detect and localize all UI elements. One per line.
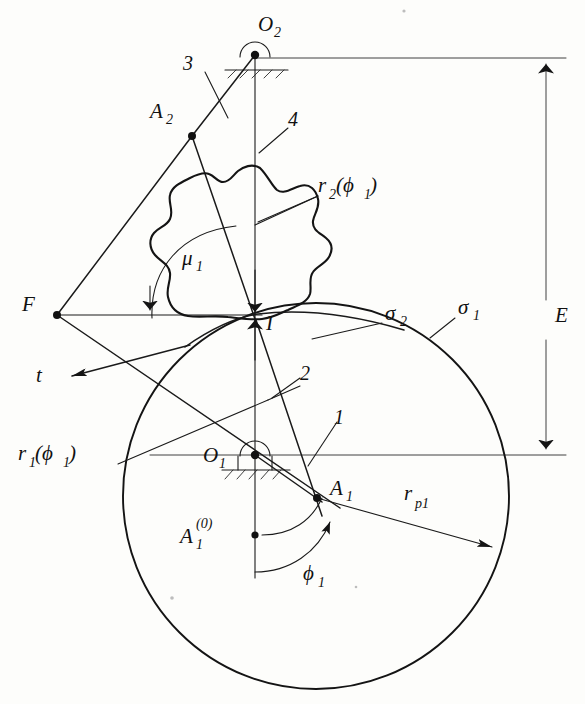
- cam-profile-curve: [150, 166, 331, 320]
- svg-text:2: 2: [329, 187, 336, 202]
- svg-text:1: 1: [196, 259, 203, 274]
- label-A2: A 2: [148, 99, 173, 127]
- O1-hatch: [237, 470, 245, 479]
- joint-dot-F: [53, 311, 61, 319]
- O1-hatch: [273, 470, 281, 479]
- link-2-line: [256, 320, 322, 516]
- svg-text:p1: p1: [414, 496, 429, 511]
- joint-dot-O2: [251, 51, 259, 59]
- svg-text:O: O: [258, 12, 273, 36]
- label-r2-phi1: r 2 (ϕ 1 ): [318, 173, 377, 202]
- paper-speck: [402, 9, 405, 12]
- leader-line-sigma2: [312, 323, 382, 339]
- r1-leader-line: [118, 400, 268, 464]
- phi1-angle-arc: [255, 522, 330, 572]
- svg-text:(ϕ: (ϕ: [35, 441, 53, 465]
- svg-text:1: 1: [196, 537, 203, 552]
- link-3-lower-segment: [57, 136, 192, 315]
- phi1-inner-arc: [262, 498, 322, 535]
- svg-text:2: 2: [400, 314, 407, 329]
- svg-text:r: r: [18, 441, 27, 465]
- joint-dot-O1: [251, 451, 259, 459]
- O2-hatch: [264, 70, 272, 78]
- label-A1-zero: A 1 (0): [178, 516, 213, 552]
- O1-hatch: [225, 470, 233, 479]
- label-phi1: ϕ 1: [303, 561, 325, 590]
- label-r1-phi1: r 1 (ϕ 1 ): [18, 441, 76, 470]
- kinematic-diagram-svg: O 2 O 1 A 2 A 1 A 1 (0) I F t E 3 4 2 1 …: [0, 0, 585, 704]
- O2-hatch: [252, 70, 260, 78]
- label-O2: O 2: [258, 12, 281, 40]
- leader-line-4: [259, 128, 288, 153]
- label-O1: O 1: [203, 443, 226, 471]
- svg-text:): ): [369, 173, 377, 197]
- joint-dot-A1-zero: [251, 531, 258, 538]
- crank-O1-A1: [255, 455, 322, 502]
- svg-text:1: 1: [473, 308, 480, 323]
- label-rp1: r p1: [404, 481, 429, 511]
- label-I: I: [265, 311, 274, 335]
- svg-text:r: r: [318, 173, 327, 197]
- technical-diagram-canvas: O 2 O 1 A 2 A 1 A 1 (0) I F t E 3 4 2 1 …: [0, 0, 585, 704]
- O1-hatch: [249, 470, 257, 479]
- O2-hatch: [240, 70, 248, 78]
- svg-text:(ϕ: (ϕ: [336, 173, 354, 197]
- svg-text:2: 2: [274, 25, 281, 40]
- svg-text:1: 1: [346, 489, 353, 504]
- svg-text:σ: σ: [385, 301, 397, 325]
- label-link-3: 3: [182, 52, 193, 74]
- O1-hatch: [261, 470, 269, 479]
- r2-leader-line-b: [258, 196, 318, 222]
- label-A1: A 1: [328, 476, 353, 504]
- mu1-angle-arc: [152, 226, 236, 318]
- label-t: t: [36, 363, 43, 387]
- svg-text:A: A: [148, 99, 163, 123]
- leader-line-1: [308, 422, 337, 466]
- label-link-1: 1: [334, 406, 344, 428]
- svg-text:ϕ: ϕ: [303, 561, 314, 585]
- leader-line-sigma1: [430, 318, 455, 338]
- label-E: E: [554, 303, 568, 327]
- tangent-arrow-t: [72, 345, 190, 376]
- label-F: F: [21, 292, 35, 316]
- svg-text:1: 1: [219, 456, 226, 471]
- joint-dot-A1: [313, 494, 321, 502]
- svg-text:1: 1: [318, 575, 325, 590]
- label-mu1: μ 1: [181, 246, 203, 274]
- svg-text:μ: μ: [181, 246, 193, 270]
- svg-text:2: 2: [166, 112, 173, 127]
- svg-text:): ): [68, 441, 76, 465]
- svg-text:σ: σ: [458, 295, 470, 319]
- svg-text:A: A: [328, 476, 343, 500]
- label-sigma1: σ 1: [458, 295, 480, 323]
- O2-hatch: [276, 70, 284, 78]
- paper-speck: [170, 596, 174, 600]
- rp1-arrow: [317, 498, 492, 547]
- line-A2-to-I: [192, 136, 256, 322]
- label-link-2: 2: [300, 362, 310, 384]
- svg-text:O: O: [203, 443, 218, 467]
- joint-dot-A2: [188, 132, 196, 140]
- svg-text:(0): (0): [196, 516, 213, 532]
- O2-hatch: [228, 70, 236, 78]
- label-sigma2: σ 2: [385, 301, 407, 329]
- svg-text:A: A: [178, 524, 193, 548]
- label-link-4: 4: [288, 108, 298, 130]
- paper-speck: [355, 586, 358, 589]
- link-3-upper-segment: [192, 55, 255, 136]
- svg-text:r: r: [404, 481, 413, 505]
